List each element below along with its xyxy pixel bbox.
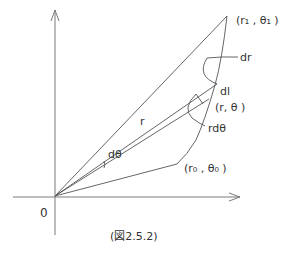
- label-rdtheta: rdθ: [208, 122, 226, 135]
- label-dtheta: dθ: [108, 148, 122, 161]
- label-origin: 0: [40, 206, 48, 220]
- ray-to-r0-theta0: [55, 164, 177, 196]
- label-r-theta: (r, θ ): [215, 101, 245, 114]
- axes: [13, 10, 240, 235]
- ray-r: [55, 84, 217, 196]
- label-dl: dl: [220, 85, 230, 98]
- ray-r-plus-dr: [55, 99, 209, 196]
- label-r0-theta0: (r₀ , θ₀ ): [184, 162, 227, 175]
- label-r1-theta1: (r₁ , θ₁ ): [236, 14, 279, 27]
- label-r: r: [140, 115, 145, 128]
- dr-brace: [203, 57, 222, 84]
- label-dr: dr: [240, 51, 252, 64]
- figure-caption: (図2.5.2): [110, 230, 158, 243]
- rdtheta-brace: [188, 94, 205, 126]
- polar-arc-length-diagram: 0 (r₁ , θ₁ ) dr dl (r, θ ) rdθ r dθ (r₀ …: [0, 0, 302, 269]
- dl-segment: [196, 94, 203, 104]
